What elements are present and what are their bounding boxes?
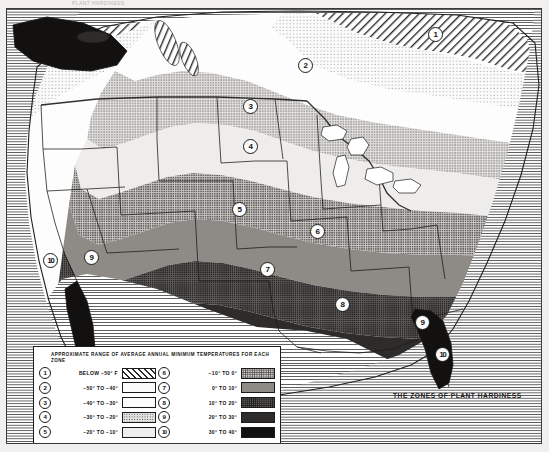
legend-swatch-zone-4 bbox=[122, 412, 156, 423]
legend-swatch-zone-10 bbox=[241, 427, 275, 438]
zone-badge-5[interactable]: 5 bbox=[232, 202, 247, 217]
map-frame: 1 2 3 4 5 6 7 8 9 10 9 10 APPROXIMATE RA… bbox=[6, 8, 542, 444]
legend-number: 10 bbox=[158, 426, 170, 438]
zone-badge-9-west[interactable]: 9 bbox=[84, 250, 99, 265]
legend-row[interactable]: 1 BELOW −50° F bbox=[39, 366, 156, 379]
zone-badge-1-north[interactable]: 1 bbox=[428, 27, 443, 42]
legend-swatch-zone-6 bbox=[241, 368, 275, 379]
legend-swatch-zone-5 bbox=[122, 427, 156, 438]
legend-range: −50° TO −40° bbox=[51, 385, 122, 391]
legend-row[interactable]: 6 −10° TO 0° bbox=[158, 366, 275, 379]
legend-range: BELOW −50° F bbox=[51, 370, 122, 376]
legend-number: 6 bbox=[158, 367, 170, 379]
legend-title: APPROXIMATE RANGE OF AVERAGE ANNUAL MINI… bbox=[51, 352, 275, 364]
legend-swatch-zone-1 bbox=[122, 368, 156, 379]
legend-swatch-zone-8 bbox=[241, 397, 275, 408]
legend-range: 20° TO 30° bbox=[170, 414, 241, 420]
legend-number: 1 bbox=[39, 367, 51, 379]
zone-badge-2[interactable]: 2 bbox=[298, 58, 313, 73]
legend-row[interactable]: 5 −20° TO −10° bbox=[39, 426, 156, 439]
legend-column-right: 6 −10° TO 0° 7 0° TO 10° 8 10° TO 20° bbox=[158, 366, 275, 439]
legend-row[interactable]: 7 0° TO 10° bbox=[158, 381, 275, 394]
legend-range: 0° TO 10° bbox=[170, 385, 241, 391]
legend-row[interactable]: 9 20° TO 30° bbox=[158, 411, 275, 424]
zone-badge-7[interactable]: 7 bbox=[260, 262, 275, 277]
legend-range: −20° TO −10° bbox=[51, 429, 122, 435]
legend-number: 9 bbox=[158, 411, 170, 423]
legend-number: 7 bbox=[158, 382, 170, 394]
zone-badge-3[interactable]: 3 bbox=[243, 99, 258, 114]
legend-range: −40° TO −30° bbox=[51, 400, 122, 406]
map-title: THE ZONES OF PLANT HARDINESS bbox=[393, 392, 522, 399]
map-page: PLANT HARDINESS bbox=[0, 0, 549, 452]
legend-number: 5 bbox=[39, 426, 51, 438]
zone-badge-10-west[interactable]: 10 bbox=[43, 253, 58, 268]
zone-badge-9-florida[interactable]: 9 bbox=[415, 315, 430, 330]
zone-badge-4[interactable]: 4 bbox=[243, 139, 258, 154]
legend-row[interactable]: 2 −50° TO −40° bbox=[39, 381, 156, 394]
legend-box: APPROXIMATE RANGE OF AVERAGE ANNUAL MINI… bbox=[33, 346, 281, 444]
legend-number: 3 bbox=[39, 397, 51, 409]
legend-number: 2 bbox=[39, 382, 51, 394]
legend-swatch-zone-3 bbox=[122, 397, 156, 408]
legend-range: 30° TO 40° bbox=[170, 429, 241, 435]
legend-swatch-zone-2 bbox=[122, 382, 156, 393]
legend-swatch-zone-9 bbox=[241, 412, 275, 423]
legend-number: 8 bbox=[158, 397, 170, 409]
legend-row[interactable]: 10 30° TO 40° bbox=[158, 426, 275, 439]
legend-row[interactable]: 4 −30° TO −20° bbox=[39, 411, 156, 424]
legend-range: −30° TO −20° bbox=[51, 414, 122, 420]
zone-badge-6[interactable]: 6 bbox=[310, 224, 325, 239]
legend-range: −10° TO 0° bbox=[170, 370, 241, 376]
legend-column-left: 1 BELOW −50° F 2 −50° TO −40° 3 −40° TO … bbox=[39, 366, 156, 439]
legend-number: 4 bbox=[39, 411, 51, 423]
legend-swatch-zone-7 bbox=[241, 382, 275, 393]
zone-badge-8[interactable]: 8 bbox=[335, 297, 350, 312]
legend-row[interactable]: 3 −40° TO −30° bbox=[39, 396, 156, 409]
legend-range: 10° TO 20° bbox=[170, 400, 241, 406]
legend-row[interactable]: 8 10° TO 20° bbox=[158, 396, 275, 409]
zone-badge-10-florida[interactable]: 10 bbox=[435, 347, 450, 362]
